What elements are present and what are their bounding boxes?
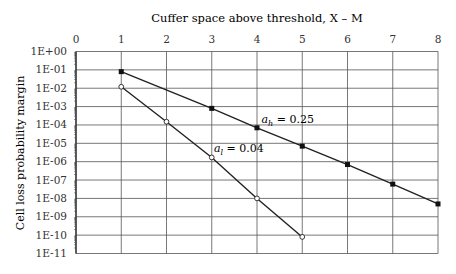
square-marker (345, 162, 350, 167)
x-tick-label: 0 (73, 33, 80, 45)
x-tick-label: 7 (389, 33, 396, 45)
y-tick-label: 1E-04 (36, 118, 68, 130)
y-tick-label: 1E-02 (36, 82, 67, 94)
x-tick-label: 2 (163, 33, 170, 45)
x-axis-ticks: 012345678 (73, 33, 442, 45)
square-marker (119, 69, 124, 74)
circle-marker (255, 196, 260, 201)
y-tick-label: 1E-07 (36, 174, 67, 186)
x-tick-label: 3 (208, 33, 215, 45)
y-axis-ticks: 1E+001E-011E-021E-031E-041E-051E-061E-07… (30, 45, 67, 259)
x-tick-label: 6 (344, 33, 351, 45)
square-marker (390, 182, 395, 187)
y-tick-label: 1E-11 (36, 247, 67, 259)
square-marker (436, 201, 441, 206)
x-tick-label: 8 (435, 33, 442, 45)
x-tick-label: 5 (299, 33, 306, 45)
circle-marker (300, 235, 305, 240)
x-tick-label: 4 (254, 33, 261, 45)
y-tick-label: 1E-06 (36, 155, 68, 167)
x-axis-title: Cuffer space above threshold, X – M (151, 11, 363, 25)
y-tick-label: 1E-03 (36, 100, 67, 112)
circle-marker (164, 119, 169, 124)
y-axis-title: Cell loss probability margin (14, 76, 27, 231)
data-series: ah = 0.25al = 0.04 (119, 69, 441, 239)
square-marker (300, 144, 305, 149)
line-chart: Cuffer space above threshold, X – M 0123… (0, 0, 456, 274)
x-tick-label: 1 (118, 33, 125, 45)
circle-marker (119, 84, 124, 89)
y-tick-label: 1E+00 (30, 45, 67, 57)
y-tick-label: 1E-01 (36, 63, 67, 75)
square-marker (209, 106, 214, 111)
square-marker (255, 125, 260, 130)
circle-marker (209, 155, 214, 160)
series-annotation: ah = 0.25 (262, 113, 314, 128)
y-tick-label: 1E-05 (36, 137, 67, 149)
y-tick-label: 1E-09 (36, 210, 67, 222)
y-tick-label: 1E-10 (36, 229, 67, 241)
y-tick-label: 1E-08 (36, 192, 67, 204)
series-annotation: al = 0.04 (214, 142, 264, 157)
